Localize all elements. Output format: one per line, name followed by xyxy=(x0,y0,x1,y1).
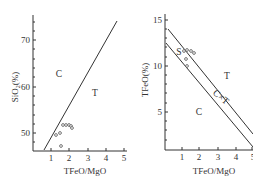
left-region-t-label: T xyxy=(92,88,98,98)
left-xtick-2: 2 xyxy=(67,153,72,163)
left-chart: 70 60 50 1 2 3 4 5 TFeO/MgO SiO2(%) C T xyxy=(10,15,127,176)
right-lower-boundary-line xyxy=(166,43,253,147)
right-chart: 15 10 5 1 2 3 4 5 TFeO/MgO TFeO(%) S T C… xyxy=(140,14,253,176)
right-region-c-label: C xyxy=(196,107,202,117)
right-upper-boundary-line xyxy=(168,29,253,134)
left-boundary-line xyxy=(44,21,117,150)
figure: 70 60 50 1 2 3 4 5 TFeO/MgO SiO2(%) C T xyxy=(0,0,253,188)
left-ytick-70: 70 xyxy=(21,35,31,45)
right-xtick-1: 1 xyxy=(180,152,185,162)
right-y-label: TFeO(%) xyxy=(140,63,150,98)
left-region-c-label: C xyxy=(56,69,62,79)
right-ytick-5: 5 xyxy=(158,107,163,117)
left-xtick-1: 1 xyxy=(49,153,54,163)
left-xtick-4: 4 xyxy=(104,153,109,163)
left-xtick-5: 5 xyxy=(122,153,127,163)
right-xtick-4: 4 xyxy=(234,152,239,162)
right-region-t-label: T xyxy=(224,71,230,81)
right-xtick-3: 3 xyxy=(216,152,221,162)
left-x-label: TFeO/MgO xyxy=(64,166,107,176)
left-ytick-60: 60 xyxy=(21,82,31,92)
right-ytick-10: 10 xyxy=(153,61,163,71)
left-y-label: SiO2(%) xyxy=(10,72,21,103)
left-ytick-50: 50 xyxy=(21,128,31,138)
left-xtick-3: 3 xyxy=(86,153,91,163)
right-x-label: TFeO/MgO xyxy=(193,166,236,176)
right-xtick-2: 2 xyxy=(197,152,202,162)
right-xtick-5: 5 xyxy=(251,152,253,162)
right-ytick-15: 15 xyxy=(153,15,163,25)
right-region-s-label: S xyxy=(176,47,181,57)
